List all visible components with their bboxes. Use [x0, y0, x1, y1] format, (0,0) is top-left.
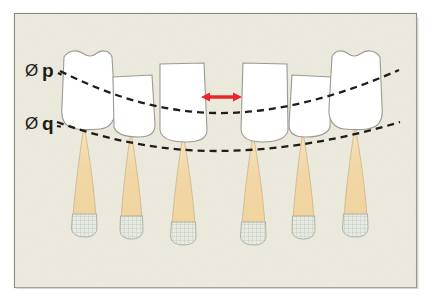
diameter-symbol-p: Ø	[25, 61, 38, 80]
crown-tooth-3	[160, 63, 207, 142]
crown-tooth-5	[289, 75, 331, 137]
diagram-canvas: Ø p Ø q	[0, 0, 432, 308]
diameter-symbol-q: Ø	[25, 114, 38, 133]
crown-tooth-2	[113, 75, 155, 137]
crown-tooth-1	[62, 51, 115, 130]
crown-tooth-4	[241, 63, 288, 142]
dental-diagram-figure: Ø p Ø q	[0, 0, 432, 308]
label-plane-p-text: p	[42, 60, 54, 81]
crown-tooth-6	[329, 51, 382, 130]
label-plane-q-text: q	[42, 113, 54, 134]
